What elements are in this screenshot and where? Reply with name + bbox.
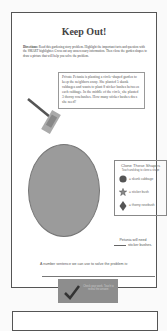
highlighter-icon[interactable] [26,97,66,137]
shape-item-skunk-cabbage[interactable]: = skunk cabbage [119,175,153,183]
worksheet-page: Keep Out! Directions: Read this gardenin… [11,12,157,288]
answer-blank[interactable] [114,245,126,246]
shape-label: = thorny rosebush [129,203,155,207]
checkmark-icon [62,282,82,302]
check-work-button[interactable]: Check your work. Touch to reveal the ans… [58,279,118,303]
garden-circle[interactable] [28,144,100,237]
story-problem[interactable]: Private Petunia is planting a circle-sha… [58,72,145,109]
diamond-icon[interactable] [119,201,127,209]
directions-label: Directions: [23,45,38,49]
circle-icon[interactable] [119,175,127,183]
number-sentence-prompt: A number sentence we can use to solve th… [12,262,156,266]
directions-text: Read this gardening story problem. Highl… [23,45,147,58]
check-work-label: Check your work. Touch to reveal the ans… [82,285,115,292]
directions: Directions: Read this gardening story pr… [23,45,149,58]
shape-item-thorny-rosebush[interactable]: = thorny rosebush [119,201,155,209]
worksheet-title: Keep Out! [12,26,156,37]
star-icon[interactable] [119,188,127,196]
shape-item-sticker-bush[interactable]: = sticker bush [119,188,149,196]
next-page [12,311,158,331]
shape-label: = sticker bush [129,190,149,194]
number-sentence-input-line[interactable] [42,276,155,277]
clone-shapes-subtitle: Touch and drag to clone a shape [115,169,166,172]
answer-line2: sticker bushes. [128,243,152,247]
answer-text: Petunia will need sticker bushes. [108,238,158,248]
clone-shapes-box: Clone These Shapes Touch and drag to clo… [114,160,167,216]
clone-shapes-title: Clone These Shapes [115,163,166,168]
shape-label: = skunk cabbage [129,177,153,181]
